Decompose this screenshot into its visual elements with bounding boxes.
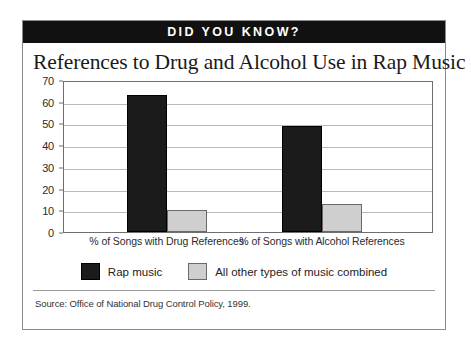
y-tick-label: 40 xyxy=(42,140,54,152)
bar xyxy=(282,126,322,232)
bar xyxy=(167,210,207,232)
y-tick-label: 20 xyxy=(42,184,54,196)
y-tick-label: 0 xyxy=(48,227,54,239)
bar-groups xyxy=(64,82,432,232)
y-tick-label: 70 xyxy=(42,75,54,87)
x-axis-label: % of Songs with Drug References xyxy=(89,235,243,247)
legend-label: Rap music xyxy=(108,266,162,278)
source-note: Source: Office of National Drug Control … xyxy=(23,291,445,309)
bar xyxy=(322,204,362,232)
banner-title: DID YOU KNOW? xyxy=(167,25,301,39)
legend-item: All other types of music combined xyxy=(188,263,387,280)
legend-label: All other types of music combined xyxy=(215,266,387,278)
plot-area xyxy=(63,81,433,233)
bar-group xyxy=(127,82,207,232)
y-axis: 010203040506070 xyxy=(33,81,59,233)
legend: Rap musicAll other types of music combin… xyxy=(23,263,445,280)
bar xyxy=(127,95,167,232)
legend-swatch xyxy=(81,263,100,280)
y-tick-label: 10 xyxy=(42,205,54,217)
legend-item: Rap music xyxy=(81,263,162,280)
page-title: References to Drug and Alcohol Use in Ra… xyxy=(23,43,445,79)
did-you-know-figure: DID YOU KNOW? References to Drug and Alc… xyxy=(22,20,446,330)
y-tick-label: 50 xyxy=(42,118,54,130)
y-tick-label: 60 xyxy=(42,97,54,109)
bar-group xyxy=(282,82,362,232)
banner: DID YOU KNOW? xyxy=(23,21,445,43)
x-axis-labels: % of Songs with Drug References% of Song… xyxy=(63,235,433,251)
chart: 010203040506070 % of Songs with Drug Ref… xyxy=(33,81,433,249)
y-tick-label: 30 xyxy=(42,162,54,174)
x-axis-label: % of Songs with Alcohol References xyxy=(239,235,404,247)
legend-swatch xyxy=(188,263,207,280)
